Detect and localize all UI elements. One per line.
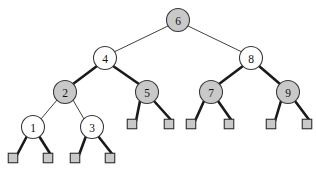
tree-node-3: 3 (81, 116, 104, 139)
tree-edge (219, 66, 243, 84)
nil-leaf-square (164, 119, 174, 129)
node-label-1: 1 (30, 122, 36, 134)
tree-node-4: 4 (94, 47, 117, 70)
node-label-2: 2 (62, 87, 68, 99)
nil-leaf-square (127, 119, 137, 129)
tree-edge (41, 100, 57, 119)
nil-leaf-square (266, 119, 276, 129)
tree-edge (98, 136, 113, 155)
nil-leaves-layer (8, 119, 312, 163)
tree-edge (113, 66, 139, 84)
node-label-7: 7 (208, 87, 214, 99)
nil-leaf-square (70, 153, 80, 163)
node-label-6: 6 (175, 15, 181, 27)
tree-edge (17, 136, 27, 155)
nil-leaf-square (224, 119, 234, 129)
tree-edge (275, 101, 281, 121)
tree-node-8: 8 (240, 47, 263, 70)
tree-edge (295, 101, 310, 121)
tree-edge (73, 66, 97, 84)
node-label-8: 8 (248, 53, 254, 65)
tree-edge (136, 101, 140, 121)
tree-diagram-canvas: 648257913 (0, 0, 316, 174)
tree-nodes-layer: 648257913 (22, 9, 300, 139)
node-label-9: 9 (285, 87, 291, 99)
node-label-4: 4 (102, 53, 108, 65)
tree-node-9: 9 (277, 81, 300, 104)
node-label-5: 5 (144, 87, 150, 99)
nil-leaf-square (8, 153, 18, 163)
tree-edge (154, 101, 172, 121)
tree-edge (79, 136, 86, 155)
nil-leaf-square (302, 119, 312, 129)
tree-edge (195, 101, 204, 121)
tree-diagram-figure: 648257913 (0, 0, 316, 174)
tree-edge (259, 66, 280, 84)
nil-leaf-square (186, 119, 196, 129)
tree-node-1: 1 (22, 116, 45, 139)
tree-node-6: 6 (167, 9, 190, 32)
nil-leaf-square (105, 153, 115, 163)
tree-edge (73, 100, 84, 119)
node-label-3: 3 (89, 122, 95, 134)
tree-edge (39, 136, 51, 155)
nil-leaf-square (43, 153, 53, 163)
tree-node-7: 7 (200, 81, 223, 104)
tree-edge (188, 26, 242, 52)
tree-node-5: 5 (136, 81, 159, 104)
tree-edge (114, 26, 168, 52)
tree-node-2: 2 (54, 81, 77, 104)
tree-edge (218, 101, 232, 121)
